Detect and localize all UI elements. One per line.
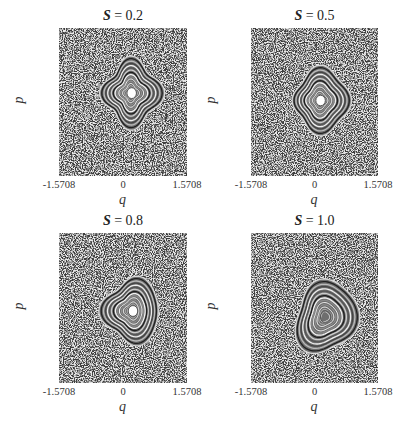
title-symbol: S xyxy=(294,213,302,228)
x-tick-label: -1.5708 xyxy=(43,386,75,397)
y-axis-label: p xyxy=(203,303,219,310)
x-tick-label: 1.5708 xyxy=(173,179,202,190)
poincare-section xyxy=(251,233,378,383)
subplot-title: S = 0.5 xyxy=(294,8,334,24)
x-tick-label: 1.5708 xyxy=(364,386,393,397)
poincare-section xyxy=(251,28,378,176)
x-tick-label: 0 xyxy=(312,386,317,397)
subplot-title: S = 0.8 xyxy=(103,213,143,229)
plot-area xyxy=(251,233,378,383)
y-axis-label: p xyxy=(203,97,219,104)
x-tick-label: -1.5708 xyxy=(235,386,267,397)
x-tick-label: 0 xyxy=(120,179,125,190)
x-axis-label: q xyxy=(311,399,318,415)
title-symbol: S xyxy=(103,8,111,23)
poincare-section xyxy=(59,28,187,176)
title-value: = 0.2 xyxy=(111,8,143,23)
y-axis-label: p xyxy=(11,97,27,104)
title-value: = 1.0 xyxy=(302,213,334,228)
plot-area xyxy=(251,28,378,176)
subplot-title: S = 0.2 xyxy=(103,8,143,24)
title-symbol: S xyxy=(294,8,302,23)
plot-area xyxy=(59,233,187,383)
x-tick-label: -1.5708 xyxy=(235,179,267,190)
x-axis-label: q xyxy=(311,192,318,208)
poincare-section xyxy=(59,233,187,383)
x-axis-label: q xyxy=(119,399,126,415)
title-value: = 0.8 xyxy=(111,213,143,228)
x-tick-label: 1.5708 xyxy=(173,386,202,397)
x-tick-label: 0 xyxy=(312,179,317,190)
title-value: = 0.5 xyxy=(302,8,334,23)
plot-area xyxy=(59,28,187,176)
subplot-title: S = 1.0 xyxy=(294,213,334,229)
x-tick-label: -1.5708 xyxy=(43,179,75,190)
x-axis-label: q xyxy=(119,192,126,208)
x-tick-label: 1.5708 xyxy=(364,179,393,190)
x-tick-label: 0 xyxy=(120,386,125,397)
title-symbol: S xyxy=(103,213,111,228)
y-axis-label: p xyxy=(11,303,27,310)
